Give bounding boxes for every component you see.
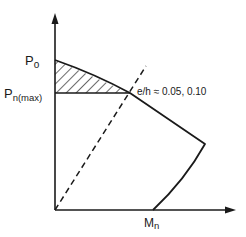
hatched-region bbox=[55, 60, 131, 94]
x-axis-arrow-icon bbox=[225, 207, 236, 214]
y-axis-arrow-icon bbox=[52, 13, 59, 24]
mn-label: Mn bbox=[144, 216, 159, 231]
y-axis bbox=[52, 13, 59, 210]
interaction-diagram: Po Pn(max) e/h ≈ 0.05, 0.10 Mn bbox=[0, 0, 246, 237]
annotation-label: e/h ≈ 0.05, 0.10 bbox=[137, 86, 207, 97]
x-axis bbox=[55, 207, 236, 214]
pn-max-label: Pn(max) bbox=[4, 86, 42, 103]
po-label: Po bbox=[25, 53, 40, 70]
